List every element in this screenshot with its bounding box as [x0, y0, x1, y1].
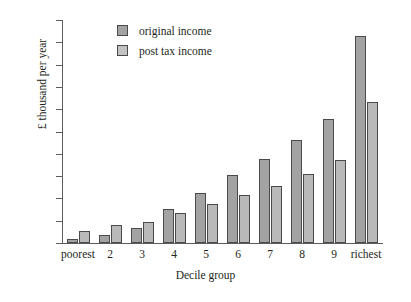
y-tick-mark: [56, 243, 62, 244]
bar-original-income: [323, 119, 334, 243]
bar-post-tax-income: [271, 186, 282, 243]
x-tick-label: richest: [336, 248, 396, 260]
bar-group: [291, 20, 315, 243]
bar-group: [259, 20, 283, 243]
plot-area: [62, 20, 382, 243]
bar-group: [355, 20, 379, 243]
legend-label: original income: [139, 25, 212, 37]
bar-post-tax-income: [335, 160, 346, 243]
bar-original-income: [227, 175, 238, 243]
bar-group: [67, 20, 91, 243]
chart-legend: original income post tax income: [117, 22, 212, 62]
bar-original-income: [163, 209, 174, 243]
bar-original-income: [195, 193, 206, 243]
legend-label: post tax income: [139, 45, 212, 57]
bar-original-income: [67, 239, 78, 243]
legend-swatch-post-tax-income: [117, 45, 128, 56]
bar-group: [323, 20, 347, 243]
bar-post-tax-income: [143, 222, 154, 243]
legend-swatch-original-income: [117, 25, 128, 36]
bar-original-income: [131, 228, 142, 243]
bar-post-tax-income: [367, 102, 378, 243]
bar-original-income: [291, 140, 302, 243]
bar-original-income: [99, 235, 110, 243]
bar-post-tax-income: [175, 213, 186, 243]
x-axis-line: [62, 243, 383, 244]
legend-item: post tax income: [117, 42, 212, 59]
bar-post-tax-income: [79, 231, 90, 243]
x-axis-title: Decile group: [0, 269, 411, 281]
bar-post-tax-income: [239, 195, 250, 243]
bar-original-income: [259, 159, 270, 243]
legend-item: original income: [117, 22, 212, 39]
bar-chart: £ thousand per year 05101520253035404550…: [0, 0, 411, 302]
bar-post-tax-income: [111, 225, 122, 243]
bar-post-tax-income: [207, 204, 218, 243]
bar-post-tax-income: [303, 174, 314, 243]
bar-group: [227, 20, 251, 243]
bar-original-income: [355, 36, 366, 243]
